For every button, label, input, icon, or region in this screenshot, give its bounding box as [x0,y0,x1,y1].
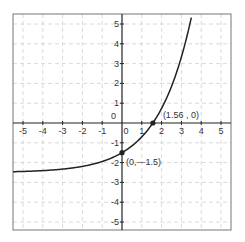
y-tick-label: 1 [114,98,119,108]
x-tick-label: -4 [39,126,47,136]
x-tick-label: 4 [199,126,204,136]
graph-container: -5-4-3-2-1012345-5-4-3-2-1012345(1.56 , … [0,0,245,242]
y-tick-label: 3 [114,59,119,69]
x-tick-label: -5 [19,126,27,136]
x-tick-label: -2 [78,126,86,136]
y-tick-label: -4 [111,197,119,207]
x-tick-label: 5 [218,126,223,136]
x-tick-label: 2 [159,126,164,136]
coordinate-plane: -5-4-3-2-1012345-5-4-3-2-1012345(1.56 , … [0,0,245,242]
y-tick-label: -2 [111,158,119,168]
y-tick-label: 4 [114,39,119,49]
point-marker [150,120,155,125]
x-tick-label: -3 [59,126,67,136]
y-tick-label: -3 [111,177,119,187]
y-tick-label: -5 [111,217,119,227]
point-label: (1.56 , 0) [163,110,199,120]
x-tick-label: -1 [98,126,106,136]
point-label: (0,—1.5) [126,157,161,167]
y-tick-label: 0 [111,111,116,121]
x-tick-label: 3 [179,126,184,136]
point-marker [119,150,124,155]
y-tick-label: 5 [114,19,119,29]
y-tick-label: 2 [114,78,119,88]
y-tick-label: -1 [111,138,119,148]
x-tick-label: 0 [123,126,128,136]
